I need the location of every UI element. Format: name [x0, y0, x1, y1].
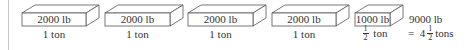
half-fraction: 1 2 [363, 25, 369, 42]
box-5-weight: 1000 lb [355, 13, 390, 26]
box-1-tons: 1 ton [22, 28, 86, 41]
total-tons: = 4 1 2 tons [408, 26, 454, 43]
box-1-weight: 2000 lb [22, 13, 86, 26]
box-3-weight: 2000 lb [188, 13, 253, 26]
box-2-weight: 2000 lb [105, 13, 170, 26]
box-4-weight: 2000 lb [272, 13, 336, 26]
box-3-tons: 1 ton [188, 28, 253, 41]
total-weight: 9000 lb [409, 13, 442, 25]
total-fraction: 1 2 [427, 25, 433, 42]
box-2-tons: 1 ton [105, 28, 170, 41]
box-5-tons: 1 2 ton [352, 26, 396, 43]
box-4-tons: 1 ton [272, 28, 336, 41]
